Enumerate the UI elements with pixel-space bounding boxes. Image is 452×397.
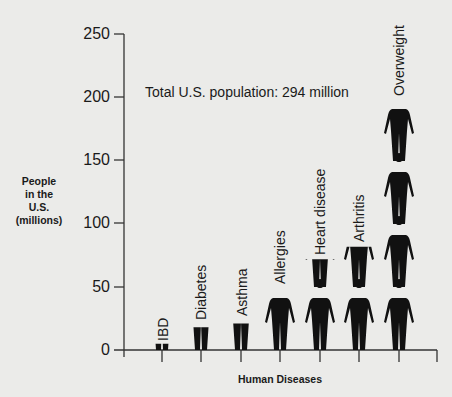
figure-stack-overweight — [384, 90, 414, 350]
pictograph-figures — [147, 90, 414, 350]
y-tick-label: 200 — [70, 88, 110, 106]
figure-stack-allergies — [265, 279, 295, 350]
category-label-overweight: Overweight — [391, 25, 407, 96]
category-label-diabetes: Diabetes — [193, 265, 209, 320]
y-tick-label: 50 — [70, 278, 110, 296]
y-axis-label: People in the U.S. (millions) — [4, 175, 74, 227]
x-axis-label: Human Diseases — [238, 373, 322, 385]
category-label-asthma: Asthma — [234, 269, 250, 316]
category-label-ibd: IBD — [155, 318, 171, 341]
y-tick-label: 0 — [70, 341, 110, 359]
category-label-arthritis: Arthritis — [351, 195, 367, 242]
y-tick-label: 100 — [70, 214, 110, 232]
category-label-heart-disease: Heart disease — [312, 169, 328, 255]
category-label-allergies: Allergies — [272, 230, 288, 284]
population-annotation: Total U.S. population: 294 million — [145, 84, 349, 100]
y-tick-label: 150 — [70, 151, 110, 169]
y-tick-label: 250 — [70, 25, 110, 43]
